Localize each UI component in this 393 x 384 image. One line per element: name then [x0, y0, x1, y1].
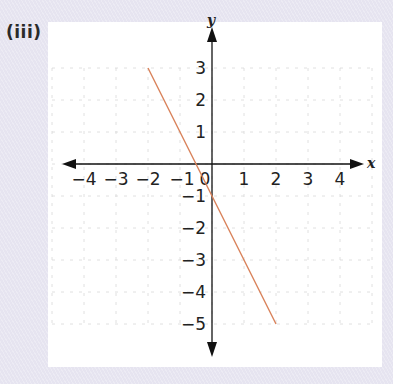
- x-axis-label: x: [366, 155, 376, 171]
- x-tick-label: −4: [71, 169, 96, 189]
- x-tick-label: −3: [103, 169, 128, 189]
- y-tick-label: 1: [195, 122, 206, 142]
- coordinate-plane: x y −4−3−2−101234 321−1−2−3−4−5: [0, 0, 393, 384]
- y-tick-label: −5: [181, 314, 206, 334]
- y-axis-down-arrow-icon: [207, 342, 217, 357]
- y-tick-label: 2: [195, 90, 206, 110]
- y-tick-label: −2: [181, 218, 206, 238]
- x-tick-label: −2: [135, 169, 160, 189]
- y-tick-label: 3: [195, 58, 206, 78]
- y-tick-labels: 321−1−2−3−4−5: [181, 58, 206, 334]
- x-tick-label: 2: [271, 169, 282, 189]
- x-tick-label: 3: [303, 169, 314, 189]
- y-tick-label: −4: [181, 282, 206, 302]
- x-axis-right-arrow-icon: [350, 159, 364, 169]
- y-tick-label: −3: [181, 250, 206, 270]
- x-tick-label: 1: [239, 169, 250, 189]
- x-axis-left-arrow-icon: [62, 159, 76, 169]
- x-tick-label: 4: [335, 169, 346, 189]
- y-tick-label: −1: [181, 186, 206, 206]
- y-axis-label: y: [206, 12, 216, 28]
- y-axis-up-arrow-icon: [207, 27, 217, 42]
- x-tick-labels: −4−3−2−101234: [71, 169, 345, 189]
